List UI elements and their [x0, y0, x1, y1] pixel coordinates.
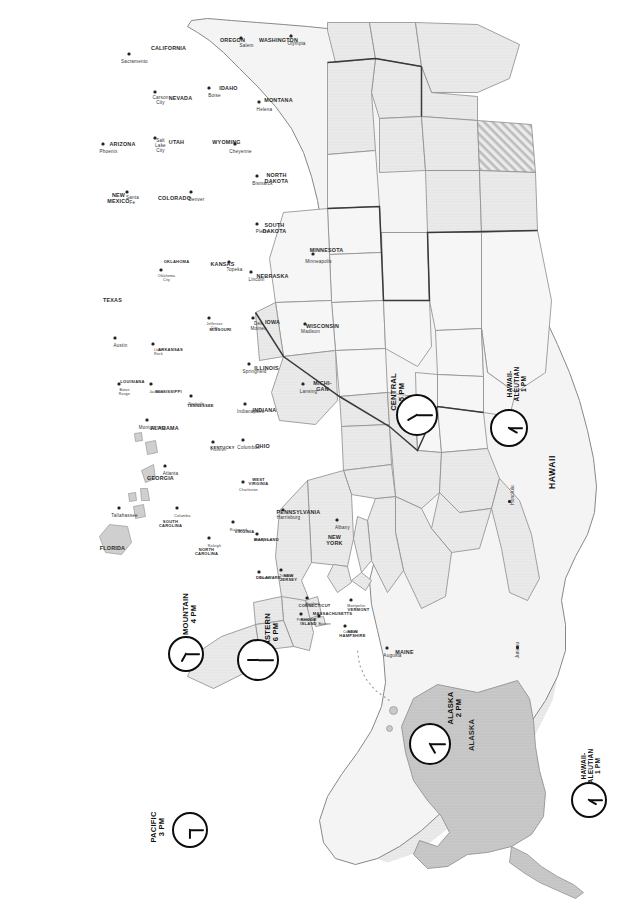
- clock-mountain: [168, 636, 204, 672]
- st-arkansas: [435, 328, 483, 376]
- map-detail-layer: [0, 0, 627, 903]
- clock-minute-hand: [509, 427, 523, 429]
- st-vermont: [253, 596, 283, 624]
- alaska-island-2: [386, 725, 392, 731]
- clock-pacific: [172, 812, 208, 848]
- clock-minute-hand: [190, 829, 204, 831]
- st-utah: [421, 116, 479, 170]
- st-colorado: [425, 170, 481, 232]
- st-south-dakota: [327, 206, 381, 254]
- alaska-inset: [357, 650, 583, 898]
- st-arizona: [477, 120, 535, 172]
- st-kansas2: [381, 232, 429, 300]
- st-alabama: [437, 406, 487, 452]
- clock-hour-hand: [429, 744, 436, 754]
- st-missouri: [383, 300, 431, 366]
- st-new-mexico: [479, 170, 537, 232]
- alaska-panhandle: [509, 846, 583, 898]
- clock-minute-hand: [589, 799, 603, 801]
- st-rhode-island: [313, 616, 325, 626]
- hawaii-niihau: [134, 432, 142, 441]
- hawaii-kauai: [145, 440, 157, 454]
- alaska-island-1: [389, 706, 397, 714]
- st-wyoming: [379, 116, 425, 172]
- st-oklahoma: [427, 232, 481, 330]
- clock-minute-hand: [258, 659, 274, 661]
- hawaii-lanai: [128, 492, 136, 501]
- st-new-jersey: [327, 564, 351, 592]
- map-stage: WASHINGTONOlympiaOREGONSalemCALIFORNIASa…: [0, 0, 627, 903]
- clock-central: [396, 394, 438, 436]
- hawaii-big-island: [99, 524, 131, 554]
- clock-minute-hand: [430, 743, 446, 745]
- clock-hour-hand: [189, 830, 191, 839]
- clock-hawaii-aleutian: [490, 409, 528, 447]
- st-california: [415, 22, 519, 92]
- hawaii-maui: [133, 504, 145, 518]
- alaska-landmass: [401, 680, 545, 868]
- st-washington: [327, 22, 375, 62]
- st-illinois: [335, 348, 387, 396]
- clock-alaska: [409, 723, 451, 765]
- st-ohio: [341, 424, 391, 470]
- st-minnesota: [269, 208, 331, 302]
- clock-minute-hand: [186, 653, 200, 655]
- clock-eastern: [237, 639, 279, 681]
- hawaii-molokai: [140, 488, 149, 500]
- st-iowa: [331, 300, 385, 350]
- st-north-dakota: [327, 150, 379, 208]
- st-mississippi: [437, 374, 483, 412]
- clock-hawaii-aleutian: [571, 782, 607, 818]
- st-idaho: [371, 58, 421, 118]
- st-wisconsin: [275, 300, 335, 356]
- time-zone-map: WASHINGTONOlympiaOREGONSalemCALIFORNIASa…: [0, 0, 627, 903]
- st-new-york: [275, 480, 311, 614]
- clock-hour-hand: [181, 654, 187, 663]
- clock-minute-hand: [417, 414, 433, 416]
- hawaii-inset: [99, 432, 157, 554]
- st-pennsylvania: [307, 470, 353, 566]
- st-montana: [327, 58, 375, 154]
- st-texas: [481, 230, 551, 392]
- hawaii-oahu: [141, 464, 155, 482]
